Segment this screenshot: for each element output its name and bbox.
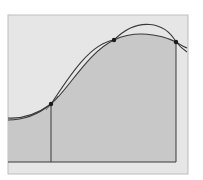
point-p2 bbox=[174, 40, 178, 44]
point-p0 bbox=[49, 102, 53, 106]
point-p1 bbox=[112, 38, 116, 42]
diagram-canvas bbox=[0, 0, 203, 180]
simpson-rule-diagram bbox=[0, 0, 203, 180]
